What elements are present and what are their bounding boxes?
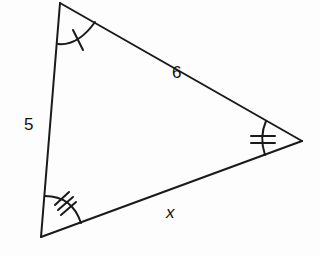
- angle-arc-right: [262, 121, 266, 155]
- triangle-diagram: 6 5 x: [0, 0, 320, 256]
- side-label-bottom: x: [165, 203, 175, 222]
- side-label-top: 6: [172, 63, 181, 82]
- angle-arc-bottom-left: [45, 196, 81, 223]
- angle-arc-top: [58, 22, 95, 44]
- side-label-left: 5: [24, 115, 33, 134]
